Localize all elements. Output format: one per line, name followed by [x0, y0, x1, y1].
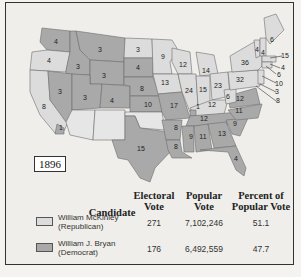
popular-vote: 7,102,246 [176, 218, 232, 228]
democrat-swatch [36, 243, 53, 252]
electoral-vote: 271 [134, 218, 174, 228]
candidate-name: William J. Bryan (Democrat) [58, 239, 115, 257]
percent-vote: 47.7 [238, 244, 284, 254]
electoral-vote: 176 [134, 244, 174, 254]
header-percent: Percent of Popular Vote [226, 190, 296, 212]
candidate-name: William McKinley (Republican) [58, 213, 118, 231]
popular-vote: 6,492,559 [176, 244, 232, 254]
percent-vote: 51.1 [238, 218, 284, 228]
results-legend: Candidate Electoral Vote Popular Vote Pe… [0, 0, 301, 277]
header-electoral: Electoral Vote [126, 190, 182, 212]
header-popular: Popular Vote [176, 190, 232, 212]
republican-swatch [36, 217, 53, 226]
